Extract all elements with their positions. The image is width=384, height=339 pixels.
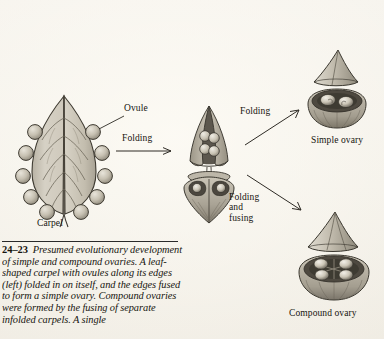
arrow-folding-horizontal [115,145,181,159]
label-ovule: Ovule [124,103,148,113]
label-folding-and-fusing-line-3: fusing [229,213,259,223]
label-folding-2: Folding [240,106,270,116]
simple-ovary-illustration [296,48,378,132]
carpel-leaf-illustration [6,88,126,228]
figure-caption: 24–23 Presumed evolutionary development … [2,244,184,339]
carpel-folding-illustration [181,104,237,178]
compound-ovary-cone [308,212,358,252]
figure-page: Ovule Carpel Folding [0,0,384,339]
label-folding-and-fusing-line-1: Folding [229,192,259,202]
caption-divider [2,241,178,242]
label-folding-and-fusing: Folding and fusing [229,192,259,223]
figure-caption-text: Presumed evolutionary development of sim… [2,244,182,325]
ovule-leader-line [99,116,124,129]
label-folding-and-fusing-line-2: and [229,202,259,212]
compound-ovary-illustration [288,210,380,306]
label-carpel: Carpel [37,218,63,228]
label-folding-1: Folding [122,133,152,143]
label-simple-ovary: Simple ovary [311,135,363,145]
figure-number: 24–23 [2,244,28,255]
label-compound-ovary: Compound ovary [289,308,357,318]
